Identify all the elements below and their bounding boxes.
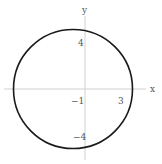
y-tick-label: −4 [73, 132, 87, 142]
x-tick-label: −1 [71, 96, 84, 106]
x-tick-label: 3 [118, 96, 124, 106]
x-axis-label: x [150, 84, 155, 94]
y-axis-label: y [81, 5, 88, 15]
circle-graph: x y −1 3 4 −4 [0, 0, 162, 164]
y-tick-label: 4 [78, 38, 84, 48]
